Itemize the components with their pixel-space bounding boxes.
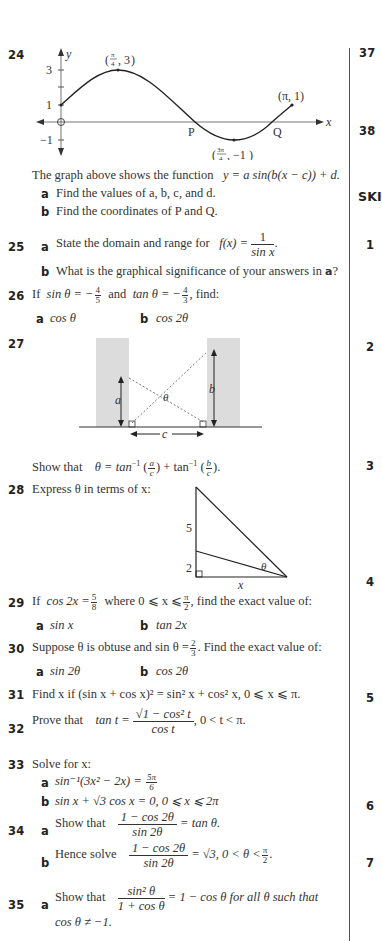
p26-part-a-label: a xyxy=(36,312,44,326)
problem-number-30: 30 xyxy=(8,642,24,656)
problem-number-24: 24 xyxy=(8,48,24,62)
p26-statement: If sin θ = −45 and tan θ = −43, find: xyxy=(32,284,219,305)
column-divider xyxy=(349,48,350,941)
svg-text:b: b xyxy=(209,382,215,396)
skill-number-2: 2 xyxy=(366,340,374,354)
svg-text:2: 2 xyxy=(186,561,192,575)
problem-number-27: 27 xyxy=(8,337,24,351)
p26-part-b-label: b xyxy=(140,312,148,326)
y-axis-label: y xyxy=(65,47,72,61)
problem-number-28: 28 xyxy=(8,483,24,497)
svg-text:−1: −1 xyxy=(233,148,246,160)
point-p-label: P xyxy=(188,125,195,139)
p34-part-b-label: b xyxy=(41,856,49,870)
p35-part-a-label: a xyxy=(41,898,49,912)
sine-graph: y x 3 1 −1 ( π 4 , 3 ) P Q ( 3π 4 , −1 )… xyxy=(30,45,340,160)
problem-number-38: 38 xyxy=(359,124,375,138)
p26-part-a-text: cos θ xyxy=(50,311,76,325)
skill-number-7: 7 xyxy=(366,856,374,870)
problem-number-37: 37 xyxy=(359,46,375,60)
p34-part-b-text: Hence solve 1 − cos 2θsin 2θ = √3, 0 < θ… xyxy=(55,841,272,870)
p25-part-b-text: What is the graphical significance of yo… xyxy=(56,264,338,279)
skill-number-5: 5 xyxy=(366,691,374,705)
p30-part-a-text: sin 2θ xyxy=(50,664,80,678)
svg-text:π: π xyxy=(111,51,115,59)
skill-number-3: 3 xyxy=(366,459,374,473)
point-q-label: Q xyxy=(273,125,282,139)
p29-statement: If cos 2x =58 where 0 ⩽ x ⩽π2, find the … xyxy=(32,591,312,612)
p34-part-a-label: a xyxy=(41,824,49,838)
problem-number-31: 31 xyxy=(8,688,24,702)
p33-part-a-label: a xyxy=(41,776,49,790)
svg-text:): ) xyxy=(249,148,253,160)
section-heading-fragment: SKI xyxy=(358,189,382,204)
problem-number-29: 29 xyxy=(8,596,24,610)
svg-text:4: 4 xyxy=(111,60,115,68)
p25-part-a-label: a xyxy=(41,240,49,254)
p24-part-a-text: Find the values of a, b, c, and d. xyxy=(56,186,216,200)
x-axis-label: x xyxy=(325,115,332,129)
p33-statement: Solve for x: xyxy=(32,757,91,771)
p30-part-a-label: a xyxy=(36,665,44,679)
svg-text:θ: θ xyxy=(163,391,169,403)
problem-number-25: 25 xyxy=(8,240,24,254)
p29-part-a-text: sin x xyxy=(50,618,73,632)
p33-part-a-text: sin⁻¹(3x² − 2x) = 5π6 xyxy=(55,771,158,792)
svg-text:(: ( xyxy=(105,53,109,67)
p35-part-a-text: Show that sin² θ1 + cos θ = 1 − cos θ fo… xyxy=(55,884,318,913)
problem-number-26: 26 xyxy=(8,289,24,303)
p30-part-b-text: cos 2θ xyxy=(156,664,188,678)
svg-text:): ) xyxy=(131,53,135,67)
y-tick-3: 3 xyxy=(46,63,52,77)
svg-text:4: 4 xyxy=(219,155,223,160)
y-tick-neg1: −1 xyxy=(40,133,53,147)
p24-part-b-label: b xyxy=(41,205,49,219)
problem-number-32: 32 xyxy=(8,722,24,736)
p24-part-b-text: Find the coordinates of P and Q. xyxy=(56,204,218,218)
problem-number-33: 33 xyxy=(8,758,24,772)
svg-text:3: 3 xyxy=(124,53,130,67)
triangle-diagram: 5 2 x θ xyxy=(180,480,300,590)
p29-part-b-text: tan 2x xyxy=(156,618,187,632)
problem-number-34: 34 xyxy=(8,824,24,838)
svg-text:,: , xyxy=(118,53,121,67)
p34-part-a-text: Show that 1 − cos 2θsin 2θ = tan θ. xyxy=(55,810,220,839)
svg-text:a: a xyxy=(115,393,121,407)
svg-text:θ: θ xyxy=(261,560,267,572)
svg-text:3π: 3π xyxy=(217,146,225,154)
svg-text:x: x xyxy=(237,578,244,590)
problem-number-35: 35 xyxy=(8,898,24,912)
svg-text:,: , xyxy=(227,148,230,160)
skill-number-4: 4 xyxy=(366,575,374,589)
p28-statement: Express θ in terms of x: xyxy=(32,482,151,496)
p27-statement: Show that θ = tan−1 (ac) + tan−1 (bc). xyxy=(32,455,220,478)
p29-part-a-label: a xyxy=(36,619,44,633)
svg-text:c: c xyxy=(162,427,168,438)
end-point-label: (π, 1) xyxy=(278,89,304,103)
p24-statement: The graph above shows the function y = a… xyxy=(32,168,340,182)
p31-statement: Find x if (sin x + cos x)² = sin² x + co… xyxy=(32,687,300,701)
skill-number-6: 6 xyxy=(366,799,374,813)
p30-statement: Suppose θ is obtuse and sin θ =23. Find … xyxy=(32,637,322,658)
p25-part-b-label: b xyxy=(41,265,49,279)
svg-text:(: ( xyxy=(212,148,216,160)
p29-part-b-label: b xyxy=(140,619,148,633)
p26-part-b-text: cos 2θ xyxy=(156,311,188,325)
p32-statement: Prove that tan t = √1 − cos² tcos t, 0 <… xyxy=(32,707,246,736)
p35-part-a-line2: cos θ ≠ −1. xyxy=(55,915,112,929)
svg-text:5: 5 xyxy=(186,521,192,535)
p24-part-a-label: a xyxy=(41,187,49,201)
skill-number-1: 1 xyxy=(366,238,374,252)
p25-part-a-text: State the domain and range for f(x) = 1s… xyxy=(56,230,278,259)
y-tick-1: 1 xyxy=(46,98,52,112)
buildings-diagram: a b c θ xyxy=(75,338,265,438)
p30-part-b-label: b xyxy=(140,665,148,679)
p33-part-b-text: sin x + √3 cos x = 0, 0 ⩽ x ⩽ 2π xyxy=(55,794,219,808)
p33-part-b-label: b xyxy=(41,795,49,809)
